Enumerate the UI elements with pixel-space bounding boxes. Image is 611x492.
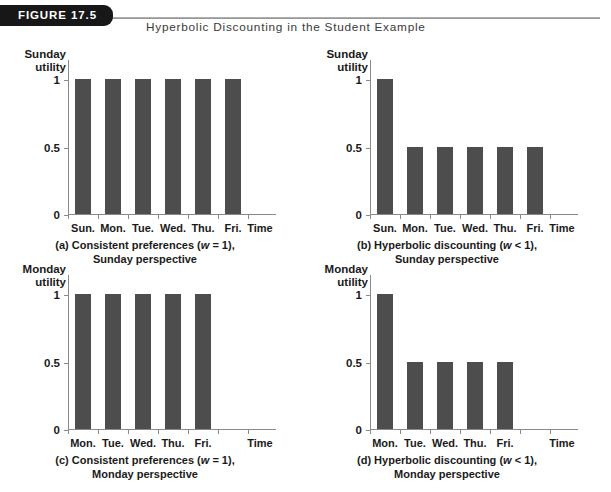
x-axis-category-label: Thu.: [191, 222, 214, 234]
x-axis-tick: [430, 214, 431, 219]
y-axis: [68, 60, 69, 215]
bar: [467, 362, 483, 429]
chart-panel-c: Mondayutility00.51Mon.Tue.Wed.Thu.Fri.Ti…: [0, 257, 305, 482]
y-axis-title-line: utility: [10, 276, 66, 289]
x-axis-category-label: Mon.: [372, 437, 398, 449]
header-rule: [96, 17, 600, 19]
y-axis-tick-label: 0.5: [346, 142, 362, 154]
bar: [105, 79, 121, 214]
x-axis-tick: [370, 214, 371, 219]
bar: [407, 147, 423, 214]
y-axis-tick-label: 1: [54, 74, 60, 86]
y-axis-tick-label: 0: [356, 424, 362, 436]
panel-caption-line1: (d) Hyperbolic discounting (w < 1),: [357, 454, 537, 466]
y-axis-tick-label: 0.5: [44, 142, 60, 154]
figure-number-label: FIGURE 17.5: [18, 5, 118, 26]
bar: [497, 362, 513, 429]
chart-panel-b: Sundayutility00.51Sun.Mon.Tue.Wed.Thu.Fr…: [302, 42, 607, 267]
x-axis-tick: [370, 429, 371, 434]
bar: [437, 147, 453, 214]
x-axis-tick: [520, 429, 521, 434]
y-axis: [68, 275, 69, 430]
x-axis-category-label: Tue.: [132, 222, 154, 234]
panel-caption-c: (c) Consistent preferences (w = 1),Monda…: [0, 453, 290, 481]
plot-area-a: 00.51Sun.Mon.Tue.Wed.Thu.Fri.Time: [68, 60, 276, 215]
x-axis-tick: [400, 214, 401, 219]
figure-page: { "header": { "tag_label": "FIGURE 17.5"…: [0, 0, 611, 492]
x-axis-tick: [98, 429, 99, 434]
x-axis-category-label: Wed.: [432, 437, 458, 449]
plot-area-d: 00.51Mon.Tue.Wed.Thu.Fri.Time: [370, 275, 578, 430]
bar: [135, 79, 151, 214]
y-axis-title-line: utility: [312, 61, 368, 74]
x-axis-tick: [490, 214, 491, 219]
x-axis-title: Time: [549, 222, 574, 234]
x-axis-tick: [188, 429, 189, 434]
x-axis-title: Time: [247, 222, 272, 234]
x-axis-title: Time: [549, 437, 574, 449]
x-axis-tick: [460, 214, 461, 219]
bar: [497, 147, 513, 214]
x-axis-category-label: Tue.: [102, 437, 124, 449]
x-axis-tick: [460, 429, 461, 434]
figure-title: Hyperbolic Discounting in the Student Ex…: [146, 20, 426, 34]
chart-panel-d: Mondayutility00.51Mon.Tue.Wed.Thu.Fri.Ti…: [302, 257, 607, 482]
y-axis-tick: [366, 80, 371, 81]
x-axis-tick: [248, 214, 249, 219]
x-axis-tick: [188, 214, 189, 219]
x-axis-category-label: Mon.: [70, 437, 96, 449]
x-axis-category-label: Fri.: [224, 222, 241, 234]
x-axis-tick: [128, 429, 129, 434]
y-axis-tick: [366, 148, 371, 149]
y-axis-title-line: Sunday: [312, 48, 368, 61]
y-axis-tick-label: 0: [54, 209, 60, 221]
y-axis-tick-label: 0.5: [44, 357, 60, 369]
y-axis-tick: [366, 295, 371, 296]
y-axis: [370, 60, 371, 215]
x-axis-category-label: Mon.: [100, 222, 126, 234]
y-axis-tick: [64, 80, 69, 81]
bar: [135, 294, 151, 429]
chart-panel-a: Sundayutility00.51Sun.Mon.Tue.Wed.Thu.Fr…: [0, 42, 305, 267]
x-axis: [68, 214, 276, 215]
x-axis-tick: [248, 429, 249, 434]
x-axis: [370, 214, 578, 215]
bar: [437, 362, 453, 429]
plot-area-b: 00.51Sun.Mon.Tue.Wed.Thu.Fri.Time: [370, 60, 578, 215]
bar: [165, 294, 181, 429]
x-axis-tick: [128, 214, 129, 219]
y-axis-tick: [64, 295, 69, 296]
y-axis-title: Mondayutility: [10, 263, 66, 289]
panel-caption-line1: (a) Consistent preferences (w = 1),: [55, 239, 234, 251]
y-axis-tick-label: 1: [356, 289, 362, 301]
y-axis-tick: [366, 363, 371, 364]
bar: [165, 79, 181, 214]
x-axis-tick: [490, 429, 491, 434]
x-axis-category-label: Fri.: [526, 222, 543, 234]
x-axis-tick: [520, 214, 521, 219]
x-axis-category-label: Fri.: [496, 437, 513, 449]
bar: [195, 294, 211, 429]
bar: [75, 294, 91, 429]
x-axis-tick: [400, 429, 401, 434]
panel-caption-line2: Monday perspective: [0, 467, 290, 481]
x-axis-category-label: Mon.: [402, 222, 428, 234]
bar: [527, 147, 543, 214]
panel-caption-line1: (c) Consistent preferences (w = 1),: [55, 454, 234, 466]
x-axis-tick: [68, 429, 69, 434]
y-axis-tick: [64, 363, 69, 364]
x-axis-category-label: Tue.: [404, 437, 426, 449]
y-axis-tick-label: 0: [54, 424, 60, 436]
x-axis: [68, 429, 276, 430]
y-axis: [370, 275, 371, 430]
bar: [377, 294, 393, 429]
y-axis-tick-label: 0: [356, 209, 362, 221]
x-axis: [370, 429, 578, 430]
plot-area-c: 00.51Mon.Tue.Wed.Thu.Fri.Time: [68, 275, 276, 430]
x-axis-tick: [68, 214, 69, 219]
bar: [467, 147, 483, 214]
bar: [377, 79, 393, 214]
x-axis-tick: [98, 214, 99, 219]
x-axis-category-label: Wed.: [160, 222, 186, 234]
y-axis-tick-label: 0.5: [346, 357, 362, 369]
